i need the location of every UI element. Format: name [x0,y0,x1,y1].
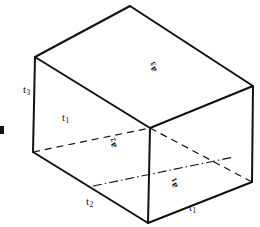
hidden-edge-bottom-left-to-back-bottom [33,128,150,152]
hidden-edge-back-bottom-to-bottom-right [150,128,252,182]
edge-label-t2: t2 [86,196,93,209]
edge-label-t3-subscript: 3 [26,88,30,97]
edge-top-right-to-bottom-right [252,86,253,182]
edge-label-t2-subscript: 2 [89,200,93,209]
edge-front-vertical [148,128,150,223]
edge-label-t1-bottom-subscript: 1 [192,206,196,215]
left-margin-tick [0,126,4,134]
edge-bottom-left-to-bottom-front [33,152,148,223]
edge-label-t1-hidden-subscript: 1 [65,116,69,125]
edge-bottom-front-to-bottom-right [148,182,252,223]
hidden-dashed-edges-group [33,128,252,182]
edge-label-t1-bottom: t1 [189,202,196,215]
edge-top-back-to-top-left [35,6,130,57]
centerline-dashdot-group [93,157,234,186]
centerline-diagonal [93,157,234,186]
edge-label-t1-hidden: t1 [62,112,69,125]
box-diagram-svg [0,0,260,227]
left-margin-tick-group [0,126,4,134]
figure-container: t3 t1 t2 t1 a3 a2 a1 [0,0,260,227]
edge-top-left-to-top-front [35,57,150,128]
edge-top-left-to-bottom-left [33,57,35,152]
edge-top-right-to-top-front [150,86,253,128]
edge-label-t3: t3 [23,84,30,97]
